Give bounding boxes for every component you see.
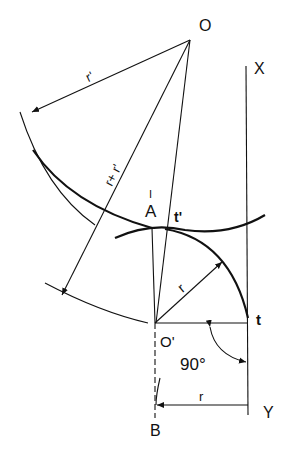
label-A-tick: I: [149, 188, 152, 200]
label-Y: Y: [263, 404, 274, 421]
label-X: X: [254, 60, 265, 77]
label-r-radius: r: [174, 280, 188, 295]
dim-line-r-plus-r-prime: [62, 40, 190, 295]
arc-B-tick: [156, 378, 160, 405]
line-A-to-O-prime: [152, 228, 155, 323]
diagram-canvas: O X r' r+ r' I A t' r t O' 90° r Y B: [0, 0, 291, 454]
label-t: t: [256, 311, 261, 328]
arc-tangent-through-A: [115, 215, 265, 238]
label-O: O: [199, 17, 211, 34]
dim-line-r: [155, 262, 222, 323]
label-B: B: [150, 422, 161, 439]
arc-small-main: [165, 229, 248, 318]
label-r-bottom: r: [199, 389, 204, 404]
label-r-prime: r': [83, 68, 96, 84]
label-O-prime: O': [160, 333, 175, 350]
arc-large-main: [33, 150, 152, 228]
label-A: A: [145, 202, 157, 221]
label-r-plus-r-prime: r+ r': [101, 162, 125, 189]
line-O-to-O-prime: [156, 40, 190, 323]
label-t-prime: t': [174, 209, 182, 225]
arc-large-outer: [20, 112, 95, 225]
dim-line-r-prime: [32, 40, 190, 112]
arc-lower: [45, 283, 148, 323]
label-angle-90: 90°: [180, 355, 206, 374]
line-X-Y: [246, 66, 248, 415]
angle-arc-90: [210, 327, 246, 362]
